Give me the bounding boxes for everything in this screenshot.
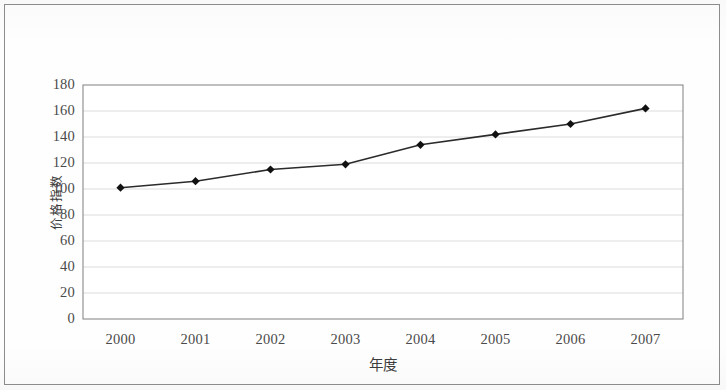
- y-axis-title: 价格指数: [46, 152, 65, 252]
- x-axis-tick-label: 2005: [466, 331, 526, 348]
- x-axis-tick-label: 2001: [166, 331, 226, 348]
- x-axis-tick-label: 2003: [316, 331, 376, 348]
- x-axis-tick-label: 2007: [616, 331, 676, 348]
- x-axis-title: 年度: [323, 353, 443, 374]
- x-axis-tick-label: 2002: [241, 331, 301, 348]
- x-axis-tick-label: 2006: [541, 331, 601, 348]
- y-axis-tick-label: 160: [41, 102, 75, 119]
- y-axis-tick-label: 180: [41, 76, 75, 93]
- y-axis-tick-label: 140: [41, 128, 75, 145]
- x-axis-tick-label: 2000: [91, 331, 151, 348]
- line-chart: 020406080100120140160180 200020012002200…: [0, 0, 726, 390]
- x-axis-tick-label: 2004: [391, 331, 451, 348]
- y-axis-tick-label: 0: [41, 310, 75, 327]
- y-axis-tick-label: 40: [41, 258, 75, 275]
- y-axis-tick-label: 20: [41, 284, 75, 301]
- figure-container: 020406080100120140160180 200020012002200…: [0, 0, 726, 390]
